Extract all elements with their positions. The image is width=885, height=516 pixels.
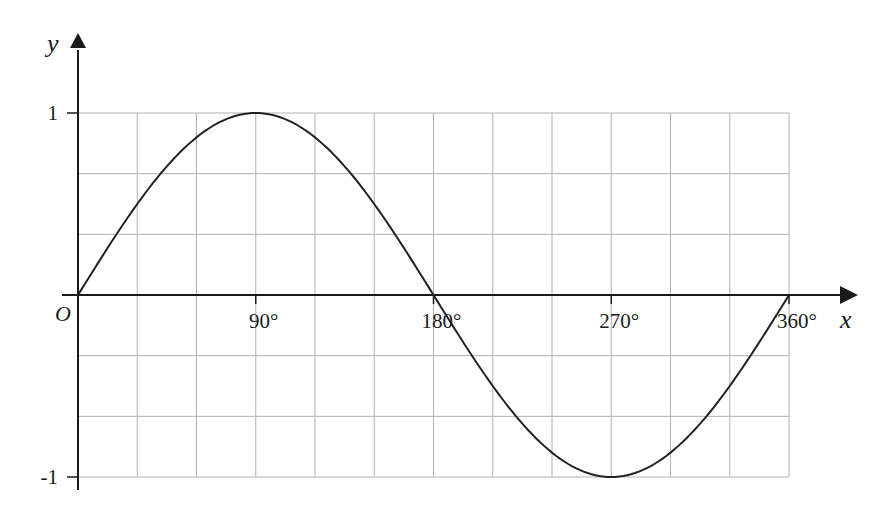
- x-tick-label: 90°: [249, 309, 278, 333]
- x-tick-label: 360°: [777, 309, 817, 333]
- x-axis-arrow-icon: [840, 286, 858, 304]
- origin-label: O: [55, 301, 71, 326]
- y-axis-arrow-icon: [70, 33, 86, 48]
- y-tick-label: 1: [48, 101, 59, 125]
- x-axis-label: x: [839, 305, 852, 334]
- x-tick-label: 270°: [599, 309, 639, 333]
- y-axis-label: y: [44, 29, 59, 58]
- axes: [62, 33, 858, 490]
- sine-chart: 90°180°270°360°1-1 x y O: [0, 0, 885, 516]
- y-tick-label: -1: [41, 465, 59, 489]
